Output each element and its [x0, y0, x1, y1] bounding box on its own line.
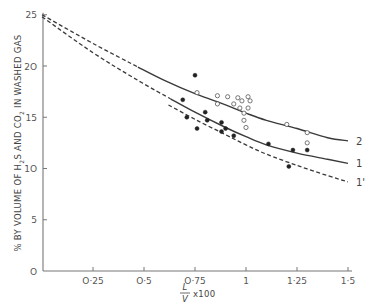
y-tick-label: 15 [26, 113, 37, 123]
filled-data-point [266, 142, 270, 146]
filled-data-point [181, 98, 185, 102]
curve-label: 1 [356, 158, 362, 169]
y-tick-label: 25 [26, 10, 37, 20]
y-tick-label: O [30, 267, 37, 277]
filled-data-point [291, 148, 295, 152]
y-tick-label: 5 [31, 215, 37, 225]
x-axis-title-denominator: V [182, 294, 189, 304]
x-tick-label: 1 [243, 276, 249, 286]
open-data-point [246, 95, 250, 99]
open-data-point [244, 125, 248, 129]
filled-data-point [224, 127, 228, 131]
x-axis-title-numerator: L [182, 282, 187, 292]
curve-label: 2 [356, 136, 362, 147]
x-tick-label: O·5 [136, 276, 152, 286]
open-data-point [215, 102, 219, 106]
x-axis-title-suffix: x100 [193, 289, 215, 299]
curve-labels: 211' [356, 136, 365, 188]
filled-data-point [232, 134, 236, 138]
x-tick-label: O·25 [82, 276, 103, 286]
open-data-point [248, 99, 252, 103]
x-tick-label: 1·25 [287, 276, 307, 286]
axis-ticks: O51O152O25O·25O·5O·7511·251·5 [24, 10, 355, 286]
open-data-point [226, 95, 230, 99]
curve-2-extrapolated [42, 15, 138, 67]
filled-data-point [287, 164, 291, 168]
open-data-point [232, 102, 236, 106]
filled-data-point [203, 110, 207, 114]
y-axis-title: % BY VOLUME OF H2S AND CO2 IN WASHED GAS [13, 34, 25, 251]
filled-data-point [305, 148, 309, 152]
curve-1 [171, 99, 348, 164]
filled-data-point [195, 127, 199, 131]
x-tick-label: 1·5 [341, 276, 355, 286]
data-points [181, 73, 310, 168]
open-data-point [305, 141, 309, 145]
open-data-point [195, 91, 199, 95]
open-data-point [236, 96, 240, 100]
open-data-point [238, 106, 242, 110]
filled-data-point [220, 120, 224, 124]
open-data-point [242, 111, 246, 115]
filled-data-point [193, 73, 197, 77]
y-tick-label: 2O [24, 62, 37, 72]
curve-2 [138, 67, 348, 141]
filled-data-point [220, 130, 224, 134]
filled-data-point [185, 115, 189, 119]
open-data-point [215, 94, 219, 98]
open-data-point [246, 106, 250, 110]
open-data-point [305, 131, 309, 135]
curve-1-prime [168, 105, 348, 182]
chart-curves [42, 15, 348, 182]
open-data-point [285, 122, 289, 126]
curve-label: 1' [356, 177, 365, 188]
curve-1-extrapolated [42, 17, 171, 99]
chart: O51O152O25O·25O·5O·7511·251·5 211' % BY … [0, 0, 370, 308]
open-data-point [242, 118, 246, 122]
filled-data-point [205, 118, 209, 122]
y-tick-label: 1O [24, 164, 37, 174]
open-data-point [240, 99, 244, 103]
